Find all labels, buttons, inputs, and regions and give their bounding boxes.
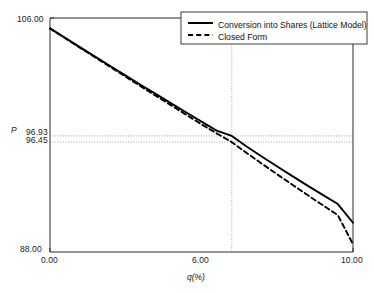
xtick-label-mid: 6.00 [192,255,209,265]
chart-screenshot: 106.00 96.93 96.45 88.00 0.00 6.00 10.00… [0,0,374,293]
xtick-label-right: 10.00 [341,255,363,265]
ytick-label-top: 106.00 [17,14,44,24]
xtick-label-left: 0.00 [41,255,58,265]
chart-figure [0,0,374,293]
ytick-label-mid-lower: 96.45 [26,135,48,145]
ytick-label-bottom: 88.00 [20,244,42,254]
legend-label-closed-form: Closed Form [218,32,267,42]
y-axis-title: P [11,125,17,135]
legend-label-lattice-model: Conversion into Shares (Lattice Model) [218,20,367,30]
x-axis-title: q(%) [187,272,205,282]
